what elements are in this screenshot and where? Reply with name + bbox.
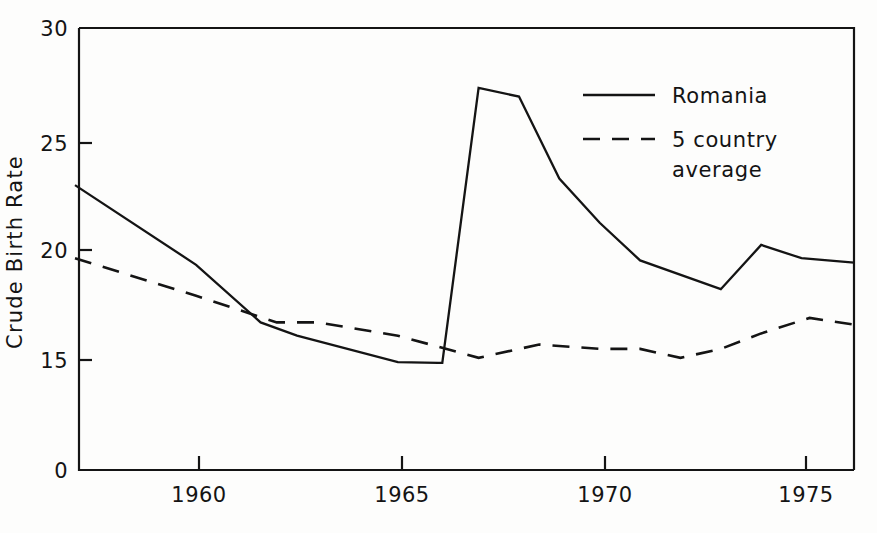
x-tick-label-1965: 1965 [374,483,429,507]
chart-figure: 30 25 20 15 0 1960 1965 1970 1975 Crude … [0,0,877,533]
series-line-5-country-average [75,258,854,358]
y-axis-title: Crude Birth Rate [3,155,27,349]
y-tick-label-0: 0 [54,459,68,483]
y-tick-label-30: 30 [40,17,68,41]
y-tick-label-25: 25 [40,132,68,156]
crude-birth-rate-line-chart: 30 25 20 15 0 1960 1965 1970 1975 Crude … [0,0,877,533]
legend-label-average-line2: average [672,158,762,182]
legend: Romania 5 country average [583,84,778,182]
y-tick-marks [79,143,92,360]
y-tick-label-20: 20 [40,239,68,263]
x-tick-label-1960: 1960 [171,483,226,507]
legend-label-average-line1: 5 country [672,128,778,152]
legend-label-romania: Romania [672,84,768,108]
x-tick-label-1970: 1970 [577,483,632,507]
x-tick-marks [199,456,806,470]
x-tick-label-1975: 1975 [778,483,833,507]
y-tick-label-15: 15 [40,349,68,373]
